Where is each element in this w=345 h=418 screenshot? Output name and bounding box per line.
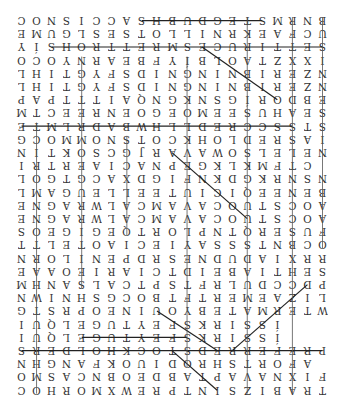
grid-letter[interactable]: P xyxy=(74,304,89,317)
grid-letter[interactable]: Y xyxy=(89,80,104,93)
grid-letter[interactable]: O xyxy=(149,344,164,357)
grid-letter[interactable]: B xyxy=(119,120,134,133)
grid-letter[interactable]: N xyxy=(270,238,285,251)
grid-letter[interactable]: I xyxy=(210,67,225,80)
grid-letter[interactable]: G xyxy=(59,27,74,40)
grid-letter[interactable]: L xyxy=(285,146,300,159)
grid-letter[interactable]: B xyxy=(315,14,330,27)
grid-letter[interactable]: N xyxy=(104,133,119,146)
grid-letter[interactable]: R xyxy=(210,278,225,291)
grid-letter[interactable]: A xyxy=(119,212,134,225)
grid-letter[interactable]: P xyxy=(165,159,180,172)
grid-letter[interactable]: E xyxy=(255,344,270,357)
grid-letter[interactable]: W xyxy=(119,384,134,397)
grid-letter[interactable]: O xyxy=(44,54,59,67)
grid-letter[interactable]: S xyxy=(180,40,195,53)
grid-letter[interactable]: T xyxy=(104,40,119,53)
grid-letter[interactable]: K xyxy=(180,133,195,146)
grid-letter[interactable]: E xyxy=(210,344,225,357)
grid-letter[interactable]: E xyxy=(285,304,300,317)
grid-letter[interactable]: S xyxy=(14,225,29,238)
grid-letter[interactable]: R xyxy=(255,225,270,238)
grid-letter[interactable]: N xyxy=(14,291,29,304)
grid-letter[interactable]: I xyxy=(44,67,59,80)
grid-letter[interactable] xyxy=(300,318,315,331)
grid-letter[interactable]: R xyxy=(240,40,255,53)
grid-letter[interactable]: I xyxy=(195,186,210,199)
grid-letter[interactable]: A xyxy=(195,238,210,251)
grid-letter[interactable]: S xyxy=(240,331,255,344)
grid-letter[interactable]: E xyxy=(270,225,285,238)
grid-letter[interactable]: T xyxy=(180,384,195,397)
grid-letter[interactable]: R xyxy=(29,344,44,357)
grid-letter[interactable]: E xyxy=(300,40,315,53)
grid-letter[interactable]: O xyxy=(59,265,74,278)
grid-letter[interactable]: A xyxy=(255,252,270,265)
grid-letter[interactable]: E xyxy=(74,331,89,344)
grid-letter[interactable]: E xyxy=(44,225,59,238)
grid-letter[interactable]: C xyxy=(210,199,225,212)
grid-letter[interactable]: N xyxy=(225,80,240,93)
grid-letter[interactable]: I xyxy=(134,304,149,317)
grid-letter[interactable]: O xyxy=(44,133,59,146)
grid-letter[interactable]: O xyxy=(180,357,195,370)
grid-letter[interactable]: S xyxy=(240,238,255,251)
grid-letter[interactable]: R xyxy=(104,265,119,278)
grid-letter[interactable]: O xyxy=(74,384,89,397)
grid-letter[interactable]: Z xyxy=(300,67,315,80)
grid-letter[interactable]: L xyxy=(74,344,89,357)
grid-letter[interactable]: D xyxy=(240,133,255,146)
grid-letter[interactable]: C xyxy=(285,199,300,212)
grid-letter[interactable]: A xyxy=(315,212,330,225)
grid-letter[interactable]: S xyxy=(270,199,285,212)
grid-letter[interactable]: T xyxy=(134,133,149,146)
grid-letter[interactable]: R xyxy=(255,357,270,370)
grid-letter[interactable]: R xyxy=(300,344,315,357)
grid-letter[interactable]: D xyxy=(165,357,180,370)
grid-letter[interactable]: F xyxy=(315,225,330,238)
grid-letter[interactable]: A xyxy=(240,54,255,67)
grid-letter[interactable]: E xyxy=(119,106,134,119)
grid-letter[interactable]: A xyxy=(195,199,210,212)
grid-letter[interactable]: U xyxy=(74,186,89,199)
grid-letter[interactable]: C xyxy=(165,133,180,146)
grid-letter[interactable]: O xyxy=(149,133,164,146)
grid-letter[interactable]: R xyxy=(74,212,89,225)
grid-letter[interactable]: D xyxy=(180,265,195,278)
grid-letter[interactable]: N xyxy=(300,14,315,27)
grid-letter[interactable]: S xyxy=(74,278,89,291)
grid-letter[interactable]: I xyxy=(315,133,330,146)
grid-letter[interactable]: I xyxy=(104,159,119,172)
grid-letter[interactable]: L xyxy=(119,186,134,199)
grid-letter[interactable]: Z xyxy=(240,384,255,397)
grid-letter[interactable]: O xyxy=(119,370,134,383)
grid-letter[interactable]: R xyxy=(74,120,89,133)
grid-letter[interactable]: N xyxy=(270,370,285,383)
grid-letter[interactable]: B xyxy=(195,304,210,317)
grid-letter[interactable]: T xyxy=(285,40,300,53)
grid-letter[interactable]: A xyxy=(59,199,74,212)
grid-letter[interactable]: N xyxy=(59,357,74,370)
grid-letter[interactable]: E xyxy=(134,384,149,397)
grid-letter[interactable]: E xyxy=(225,14,240,27)
grid-letter[interactable]: C xyxy=(134,199,149,212)
grid-letter[interactable]: O xyxy=(300,199,315,212)
grid-letter[interactable]: T xyxy=(300,304,315,317)
grid-letter[interactable]: S xyxy=(285,225,300,238)
grid-letter[interactable]: N xyxy=(14,146,29,159)
grid-letter[interactable] xyxy=(285,318,300,331)
grid-letter[interactable]: E xyxy=(89,186,104,199)
grid-letter[interactable]: G xyxy=(149,106,164,119)
grid-letter[interactable]: E xyxy=(14,212,29,225)
grid-letter[interactable]: M xyxy=(165,40,180,53)
grid-letter[interactable]: Í xyxy=(29,40,44,53)
grid-letter[interactable]: S xyxy=(134,14,149,27)
grid-letter[interactable]: M xyxy=(89,384,104,397)
grid-letter[interactable]: O xyxy=(270,93,285,106)
grid-letter[interactable]: C xyxy=(104,146,119,159)
grid-letter[interactable]: K xyxy=(195,331,210,344)
grid-letter[interactable]: G xyxy=(59,186,74,199)
grid-letter[interactable]: U xyxy=(29,331,44,344)
grid-letter[interactable]: R xyxy=(149,252,164,265)
grid-letter[interactable]: L xyxy=(104,199,119,212)
